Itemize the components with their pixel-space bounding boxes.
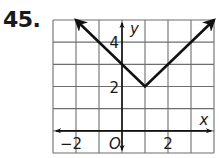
y-tick-label: 2 [109, 79, 119, 97]
y-tick-label: 4 [109, 34, 119, 52]
x-axis-label: x [199, 111, 209, 129]
y-axis-label: y [129, 20, 140, 38]
origin-label: O [109, 135, 121, 153]
coordinate-plane: −2242xyO [0, 0, 219, 158]
grid-lines [53, 20, 214, 153]
x-tick-label: −2 [60, 135, 82, 153]
x-tick-label: 2 [163, 135, 173, 153]
